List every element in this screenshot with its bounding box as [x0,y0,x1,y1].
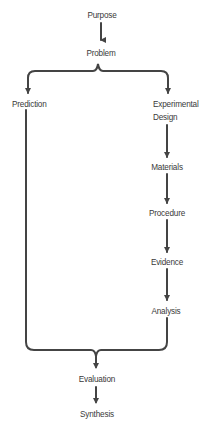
node-evaluation: Evaluation [79,373,115,384]
node-experimental-design-line1: Experimental [153,98,199,109]
node-evidence: Evidence [151,256,183,267]
node-procedure: Procedure [149,207,185,218]
node-materials: Materials [151,161,183,172]
node-problem: Problem [86,47,115,58]
node-synthesis: Synthesis [80,408,114,419]
bottom-brace [26,110,167,356]
top-brace [28,64,168,93]
node-experimental-design-line2: Design [153,111,177,122]
node-analysis: Analysis [151,305,180,316]
node-prediction: Prediction [12,98,47,109]
node-purpose: Purpose [87,9,116,20]
